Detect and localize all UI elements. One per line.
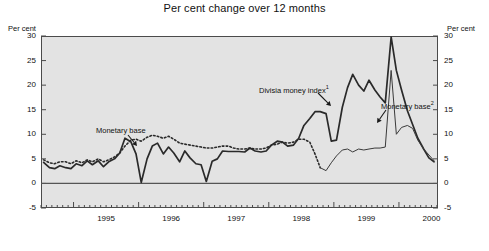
annotation-arrows	[128, 93, 386, 146]
series-line	[44, 37, 435, 182]
x-tick-label: 1996	[151, 214, 191, 223]
x-tick-label: 1998	[281, 214, 321, 223]
annotation-monetary-base-2: Monetary base2	[381, 100, 434, 111]
y-tick-label: 10	[444, 129, 466, 138]
series-line	[320, 70, 434, 170]
x-tick-label: 1999	[346, 214, 386, 223]
y-tick-label: -5	[444, 203, 466, 212]
x-tick-label: 1997	[216, 214, 256, 223]
y-tick-label: 15	[14, 105, 36, 114]
y-tick-label: -5	[14, 203, 36, 212]
y-tick-label: 15	[444, 105, 466, 114]
x-tick-label: 1995	[86, 214, 126, 223]
y-tick-label: 20	[444, 80, 466, 89]
y-tick-label: 30	[14, 31, 36, 40]
x-tick-label: 2000	[411, 214, 451, 223]
y-tick-label: 5	[14, 154, 36, 163]
y-tick-label: 20	[14, 80, 36, 89]
y-tick-label: 10	[14, 129, 36, 138]
y-tick-label: 0	[14, 178, 36, 187]
annotation-monetary-base-1: Monetary base	[96, 126, 146, 135]
y-tick-label: 5	[444, 154, 466, 163]
chart-container: Per cent change over 12 months Per cent …	[0, 0, 489, 251]
data-series-layer	[44, 37, 435, 182]
y-tick-label: 25	[14, 56, 36, 65]
y-tick-label: 0	[444, 178, 466, 187]
y-tick-label: 25	[444, 56, 466, 65]
y-tick-label: 30	[444, 31, 466, 40]
annotation-divisia-money-index: Divisia money index1	[259, 84, 329, 95]
